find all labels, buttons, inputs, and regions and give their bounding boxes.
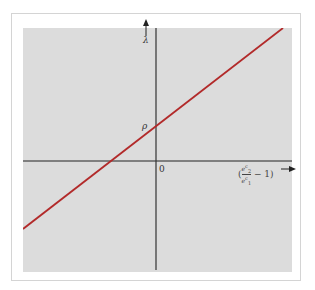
x-axis-label: (ec2ec1 − 1): [238, 163, 274, 186]
y-axis-label: λ: [143, 36, 149, 45]
x-arrow-head-icon: [289, 166, 296, 172]
intercept-label: ρ: [142, 122, 147, 131]
data-line: [23, 28, 283, 229]
x-label-fraction: ec2ec1: [242, 163, 252, 186]
origin-label: 0: [159, 165, 165, 174]
y-arrow-head-icon: [143, 19, 149, 26]
x-label-tail: − 1): [251, 169, 274, 179]
chart-graphics: [0, 0, 315, 290]
x-label-den-sub: 1: [248, 180, 251, 186]
